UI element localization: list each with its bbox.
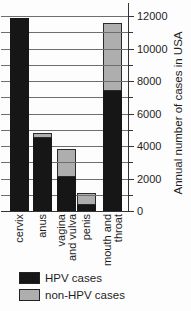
legend-label-non-hpv: non-HPV cases — [40, 289, 125, 301]
bar-cervix-hpv-segment — [10, 18, 29, 211]
bar-mouth-and-throat-hpv-segment — [103, 91, 122, 211]
y-tick-label-10000: 10000 — [137, 43, 173, 55]
y-axis-line — [128, 3, 129, 212]
y-axis-tick-9000 — [129, 65, 133, 66]
y-axis-tick-8000 — [129, 81, 134, 82]
y-axis-tick-1000 — [129, 195, 133, 196]
legend-item-non-hpv: non-HPV cases — [19, 289, 125, 301]
y-tick-label-4000: 4000 — [137, 140, 173, 152]
y-axis-tick-11000 — [129, 32, 133, 33]
y-axis-tick-3000 — [129, 162, 133, 163]
y-axis-tick-7000 — [129, 97, 133, 98]
y-axis-tick-6000 — [129, 114, 134, 115]
legend-swatch-non-hpv — [19, 289, 40, 301]
y-tick-label-8000: 8000 — [137, 75, 173, 87]
y-tick-label-12000: 12000 — [137, 10, 173, 22]
legend-label-hpv: HPV cases — [40, 272, 102, 284]
chart-plot-area: 020004000600080001000012000cervixanusvag… — [0, 0, 191, 311]
y-tick-label-0: 0 — [137, 205, 173, 217]
y-tick-label-6000: 6000 — [137, 108, 173, 120]
bar-anus-hpv-segment — [33, 138, 52, 211]
y-axis-tick-5000 — [129, 130, 133, 131]
x-label-cervix: cervix — [14, 214, 25, 276]
y-axis-tick-12000 — [129, 16, 134, 17]
x-label-anus: anus — [37, 214, 48, 276]
hpv-cases-figure: 020004000600080001000012000cervixanusvag… — [0, 0, 191, 311]
y-axis-tick-2000 — [129, 179, 134, 180]
x-label-vagina-and-vulva: vagina and vulva — [56, 214, 78, 276]
legend-item-hpv: HPV cases — [19, 272, 125, 284]
y-axis-tick-10000 — [129, 49, 134, 50]
y-axis-title: Annual number of cases in USA — [171, 18, 185, 208]
x-label-penis: penis — [81, 214, 92, 276]
bar-vagina-and-vulva-hpv-segment — [57, 177, 76, 211]
legend-swatch-hpv — [19, 272, 40, 284]
x-axis-line — [1, 211, 129, 212]
y-axis-tick-0 — [129, 211, 134, 212]
y-tick-label-2000: 2000 — [137, 173, 173, 185]
y-axis-tick-4000 — [129, 146, 134, 147]
x-label-mouth-and-throat: mouth and throat — [102, 214, 124, 276]
legend: HPV cases non-HPV cases — [19, 272, 125, 306]
